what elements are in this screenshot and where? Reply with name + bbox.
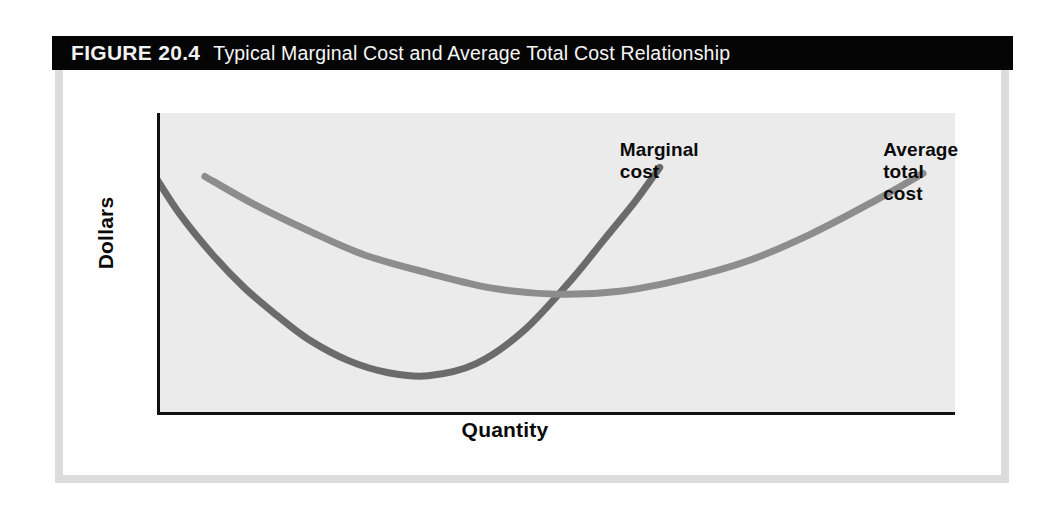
- chart-area: Dollars Quantity Marginalcost Averagetot…: [55, 70, 1009, 483]
- y-axis-title: Dollars: [94, 173, 120, 293]
- figure-title-bar: FIGURE 20.4 Typical Marginal Cost and Av…: [52, 36, 1013, 70]
- plot-svg: [157, 113, 955, 415]
- x-axis-title: Quantity: [55, 418, 955, 442]
- marginal-cost-label-line1: Marginal: [620, 139, 699, 160]
- average-total-cost-curve: [205, 173, 923, 294]
- axes-group: [157, 113, 955, 415]
- marginal-cost-curve: [157, 167, 660, 376]
- series-group: [157, 167, 923, 376]
- marginal-cost-label: Marginalcost: [620, 139, 699, 183]
- figure-caption: Typical Marginal Cost and Average Total …: [213, 42, 730, 65]
- average-total-cost-label-line1: Average: [883, 139, 958, 160]
- figure-number-label: FIGURE 20.4: [71, 41, 200, 65]
- average-total-cost-label-line2: total cost: [883, 161, 924, 204]
- plot-panel: Marginalcost Averagetotal cost: [157, 113, 955, 415]
- average-total-cost-label: Averagetotal cost: [883, 139, 958, 205]
- marginal-cost-label-line2: cost: [620, 161, 659, 182]
- figure-container: FIGURE 20.4 Typical Marginal Cost and Av…: [0, 0, 1063, 509]
